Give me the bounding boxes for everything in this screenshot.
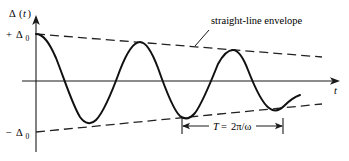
lower-envelope-line	[36, 104, 322, 132]
chart-svg	[0, 0, 349, 161]
axes-group	[22, 15, 340, 152]
envelope-group	[36, 34, 322, 132]
envelope-callout-group	[195, 30, 209, 46]
period-measure-group	[182, 118, 283, 134]
upper-envelope-line	[36, 34, 322, 57]
envelope-leader-line	[195, 30, 209, 46]
